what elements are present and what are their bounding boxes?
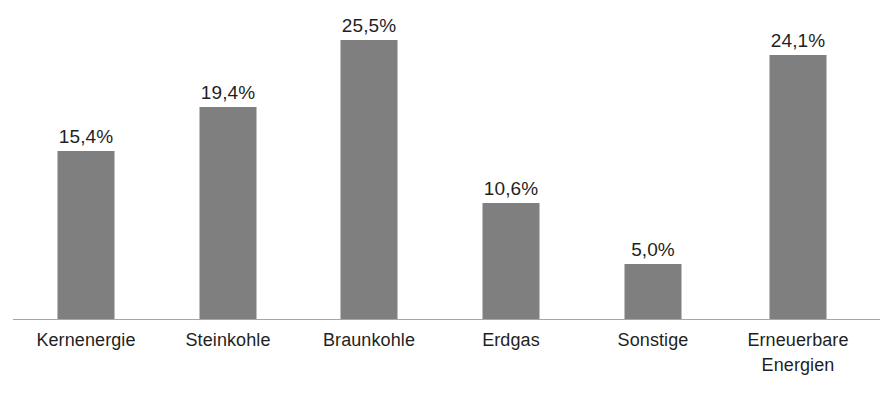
bar-erneuerbare-energien[interactable] bbox=[770, 55, 827, 319]
bar-braunkohle[interactable] bbox=[341, 40, 398, 319]
category-label-kernenergie: Kernenergie bbox=[36, 330, 135, 350]
bar-slot-5: 24,1% bbox=[735, 0, 861, 320]
value-label-sonstige: 5,0% bbox=[631, 239, 675, 261]
value-label-erneuerbare-energien: 24,1% bbox=[771, 30, 825, 52]
bar-erdgas[interactable] bbox=[483, 203, 540, 319]
value-label-kernenergie: 15,4% bbox=[59, 126, 113, 148]
value-label-braunkohle: 25,5% bbox=[342, 15, 396, 37]
category-slot-3: Erdgas bbox=[448, 328, 574, 353]
category-label-erneuerbare-energien: Erneuerbare Energien bbox=[747, 330, 848, 375]
category-slot-0: Kernenergie bbox=[23, 328, 149, 353]
bar-sonstige[interactable] bbox=[625, 264, 682, 319]
category-label-sonstige: Sonstige bbox=[618, 330, 689, 350]
bar-slot-2: 25,5% bbox=[306, 0, 432, 320]
bar-slot-0: 15,4% bbox=[23, 0, 149, 320]
bar-slot-1: 19,4% bbox=[165, 0, 291, 320]
bar-steinkohle[interactable] bbox=[200, 107, 257, 319]
category-slot-2: Braunkohle bbox=[306, 328, 432, 353]
category-slot-5: Erneuerbare Energien bbox=[735, 328, 861, 378]
bar-slot-3: 10,6% bbox=[448, 0, 574, 320]
bar-kernenergie[interactable] bbox=[58, 151, 115, 319]
category-label-steinkohle: Steinkohle bbox=[185, 330, 270, 350]
value-label-erdgas: 10,6% bbox=[484, 178, 538, 200]
plot-area: 15,4% 19,4% 25,5% 10,6% 5,0% 24,1% bbox=[0, 0, 890, 320]
category-label-braunkohle: Braunkohle bbox=[323, 330, 415, 350]
category-axis-labels: Kernenergie Steinkohle Braunkohle Erdgas… bbox=[0, 328, 890, 418]
bar-chart: 15,4% 19,4% 25,5% 10,6% 5,0% 24,1% Kerne… bbox=[0, 0, 890, 418]
value-label-steinkohle: 19,4% bbox=[201, 82, 255, 104]
category-slot-4: Sonstige bbox=[590, 328, 716, 353]
bar-slot-4: 5,0% bbox=[590, 0, 716, 320]
category-label-erdgas: Erdgas bbox=[482, 330, 540, 350]
category-slot-1: Steinkohle bbox=[165, 328, 291, 353]
